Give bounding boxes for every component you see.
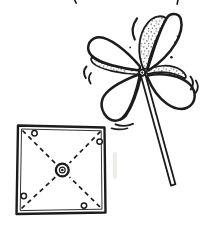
ink-fleck xyxy=(177,35,179,37)
punch-hole-top-left xyxy=(32,131,37,136)
blade-right-loop xyxy=(148,74,195,109)
motion-arc-left-inner xyxy=(89,73,91,84)
punch-hole-bottom-left xyxy=(21,193,26,198)
page-edge-marks xyxy=(75,0,178,4)
ink-fleck xyxy=(129,47,131,49)
center-grommet xyxy=(56,164,69,177)
blade-bottom-loop xyxy=(102,75,140,121)
pinwheel-illustration xyxy=(0,0,201,226)
scan-smudge xyxy=(113,152,117,179)
motion-arc-right-outer xyxy=(196,81,198,93)
ink-fleck xyxy=(174,42,175,43)
edge-tick-right xyxy=(177,0,178,4)
blade-bottom xyxy=(102,75,141,121)
punch-hole-bottom-right xyxy=(81,203,86,208)
motion-arc-right-inner xyxy=(191,77,193,90)
edge-tick-left xyxy=(75,0,77,3)
motion-arc-top xyxy=(133,19,137,40)
motion-dash-bottom-lower xyxy=(112,128,128,129)
grommet-center-dot xyxy=(61,169,64,172)
blade-left xyxy=(88,37,140,74)
motion-arc-left-outer xyxy=(84,67,86,79)
motion-dash-bottom-upper xyxy=(116,124,134,126)
ink-fleck xyxy=(170,56,173,59)
punch-hole-top-right xyxy=(97,139,102,144)
illustration-canvas xyxy=(0,0,201,226)
template-square xyxy=(17,126,106,215)
pinwheel-hub-pin xyxy=(141,71,143,73)
